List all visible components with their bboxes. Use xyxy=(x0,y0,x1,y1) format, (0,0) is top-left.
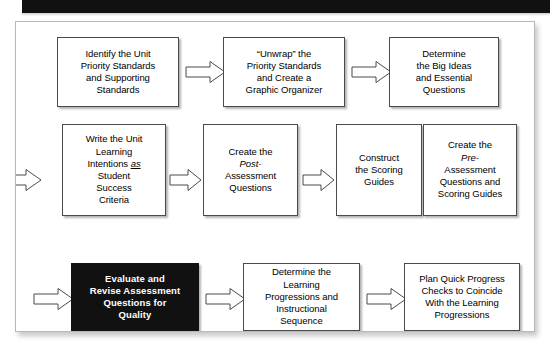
box-line: Sequence xyxy=(280,315,322,326)
process-box-text: Evaluate and Revise Assessment Questions… xyxy=(87,273,184,322)
figure-frame: Identify the Unit Priority Standards and… xyxy=(15,21,535,332)
box-line: Progressions and xyxy=(265,291,338,302)
top-banner-shadow xyxy=(22,13,550,16)
box-line: Instructional xyxy=(276,303,327,314)
box-line: Write the Unit xyxy=(86,133,143,144)
box-line: Create the xyxy=(229,146,273,157)
box-line: Determine xyxy=(422,48,465,59)
box-line: With the Learning xyxy=(425,297,499,308)
box-line: Identify the Unit xyxy=(85,48,150,59)
box-line: Learning xyxy=(96,146,133,157)
box-line: Revise Assessment xyxy=(90,285,181,296)
box-line: Criteria xyxy=(99,194,129,205)
process-box-text: Determine the Big Ideas and Essential Qu… xyxy=(413,48,475,97)
process-box-learning-intentions[interactable]: Write the Unit Learning Intentions as St… xyxy=(62,124,166,216)
connector-arrow-r2-1to2 xyxy=(170,169,202,191)
box-line: Priority Standards xyxy=(81,60,156,71)
box-line: Scoring Guides xyxy=(438,188,502,199)
connector-arrow-r3-2to3 xyxy=(367,288,407,310)
process-box-learning-progressions[interactable]: Determine the Learning Progressions and … xyxy=(243,263,360,331)
box-line: and Supporting xyxy=(86,72,150,83)
process-box-text: Write the Unit Learning Intentions as St… xyxy=(83,133,146,206)
process-box-pre-assessment-questions[interactable]: Create the Pre- Assessment Questions and… xyxy=(423,124,517,216)
box-line: Quality xyxy=(119,309,152,320)
box-line: Success xyxy=(96,182,132,193)
box-line: Questions and xyxy=(440,176,501,187)
box-line: Create the xyxy=(448,139,492,150)
box-line: Evaluate and xyxy=(105,273,165,284)
process-box-text: “Unwrap” the Priority Standards and Crea… xyxy=(243,48,326,97)
process-box-construct-scoring-guides[interactable]: Construct the Scoring Guides xyxy=(336,124,422,216)
process-box-text: Create the Pre- Assessment Questions and… xyxy=(435,139,505,200)
process-box-text: Determine the Learning Progressions and … xyxy=(262,266,341,327)
box-line: Learning xyxy=(283,279,320,290)
box-emphasis-post: Post- xyxy=(240,158,262,169)
connector-arrow-r2-2to3 xyxy=(303,169,335,191)
connector-arrow-r1-2to3 xyxy=(352,61,392,83)
box-line: Guides xyxy=(364,176,394,187)
box-line: Checks to Coincide xyxy=(422,285,503,296)
box-line: Construct xyxy=(359,152,399,163)
flowchart-page: Identify the Unit Priority Standards and… xyxy=(0,0,550,350)
box-line: Priority Standards xyxy=(247,60,322,71)
box-line: and Essential xyxy=(416,72,472,83)
process-box-post-assessment-questions[interactable]: Create the Post- Assessment Questions xyxy=(203,124,298,216)
box-line: Plan Quick Progress xyxy=(419,273,505,284)
box-line: Questions xyxy=(229,182,271,193)
box-line: Standards xyxy=(97,84,140,95)
box-line: “Unwrap” the xyxy=(257,48,311,59)
connector-arrow-r2-entry xyxy=(15,169,42,191)
process-box-evaluate-revise-questions[interactable]: Evaluate and Revise Assessment Questions… xyxy=(71,263,199,331)
process-box-unwrap-standards[interactable]: “Unwrap” the Priority Standards and Crea… xyxy=(223,37,345,107)
box-line: Student xyxy=(98,170,130,181)
box-line: Assessment xyxy=(444,164,495,175)
process-box-text: Create the Post- Assessment Questions xyxy=(222,146,279,195)
box-line: the Scoring xyxy=(355,164,403,175)
box-emphasis-pre: Pre- xyxy=(461,152,479,163)
top-banner-bar xyxy=(22,0,550,13)
box-line: Questions xyxy=(423,84,465,95)
process-box-text: Identify the Unit Priority Standards and… xyxy=(78,48,159,97)
connector-arrow-r1-1to2 xyxy=(186,61,226,83)
process-box-determine-big-ideas[interactable]: Determine the Big Ideas and Essential Qu… xyxy=(389,37,499,107)
box-line: Progressions xyxy=(435,309,490,320)
connector-arrow-r3-1to2 xyxy=(206,288,246,310)
process-box-text: Construct the Scoring Guides xyxy=(352,152,406,189)
process-box-quick-progress-checks[interactable]: Plan Quick Progress Checks to Coincide W… xyxy=(404,263,520,331)
box-line: Assessment xyxy=(225,170,276,181)
box-emphasis-as: as xyxy=(131,158,141,169)
process-box-text: Plan Quick Progress Checks to Coincide W… xyxy=(416,273,508,322)
box-line: the Big Ideas xyxy=(417,60,472,71)
box-line: and Create a xyxy=(257,72,311,83)
box-line: Determine the xyxy=(272,266,331,277)
connector-arrow-r3-entry xyxy=(34,288,74,310)
box-line: Questions for xyxy=(103,297,166,308)
box-line: Graphic Organizer xyxy=(246,84,323,95)
process-box-identify-priority-standards[interactable]: Identify the Unit Priority Standards and… xyxy=(57,37,179,107)
box-line: Intentions xyxy=(87,158,130,169)
